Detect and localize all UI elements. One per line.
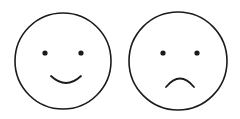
emoji-faces-canvas <box>0 0 240 119</box>
happy-left-eye <box>42 50 47 55</box>
frown-mouth <box>166 79 194 88</box>
sad-face-outline <box>129 12 227 110</box>
happy-face-outline <box>15 13 111 109</box>
happy-face-icon <box>15 13 111 109</box>
sad-face-icon <box>129 12 227 110</box>
sad-right-eye <box>194 50 199 55</box>
sad-left-eye <box>160 50 165 55</box>
smile-mouth <box>51 76 81 83</box>
happy-right-eye <box>78 50 83 55</box>
